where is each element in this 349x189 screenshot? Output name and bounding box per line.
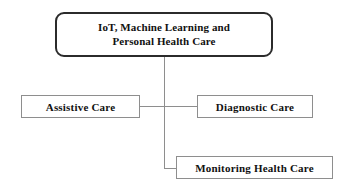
connector-to-assistive-care bbox=[140, 106, 165, 107]
node-diagnostic-care: Diagnostic Care bbox=[197, 95, 313, 118]
node-root-label: IoT, Machine Learning and Personal Healt… bbox=[92, 21, 236, 49]
node-monitoring-health-care: Monitoring Health Care bbox=[176, 156, 333, 179]
node-assistive-care-label: Assistive Care bbox=[46, 101, 116, 113]
connector-root-stem bbox=[164, 56, 165, 169]
diagram-canvas: IoT, Machine Learning and Personal Healt… bbox=[0, 0, 349, 189]
connector-to-diagnostic-care bbox=[164, 106, 198, 107]
node-root-label-line1: IoT, Machine Learning and bbox=[98, 21, 230, 33]
node-monitoring-health-care-label: Monitoring Health Care bbox=[195, 162, 313, 174]
node-assistive-care: Assistive Care bbox=[21, 95, 140, 118]
node-root-iot-machine-learning-personal-health-care: IoT, Machine Learning and Personal Healt… bbox=[55, 12, 273, 57]
node-root-label-line2: Personal Health Care bbox=[112, 35, 215, 47]
node-diagnostic-care-label: Diagnostic Care bbox=[216, 101, 294, 113]
